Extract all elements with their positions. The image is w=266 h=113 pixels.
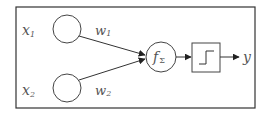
edge-x1-to-sum (79, 36, 145, 55)
input-label-x2: x2 (22, 82, 35, 99)
diagram-frame (16, 7, 255, 108)
output-label-y: y (242, 49, 252, 65)
perceptron-diagram: x1 w1 x2 w2 fΣ y (0, 0, 266, 113)
weight-label-w2: w2 (95, 83, 111, 98)
input-node-x1 (53, 15, 81, 43)
input-label-x1: x1 (22, 22, 35, 39)
input-node-x2 (53, 74, 81, 102)
sum-node-label: fΣ (152, 49, 165, 65)
weight-label-w1: w1 (95, 23, 111, 38)
step-function-icon (199, 51, 214, 64)
edge-x2-to-sum (79, 59, 145, 80)
